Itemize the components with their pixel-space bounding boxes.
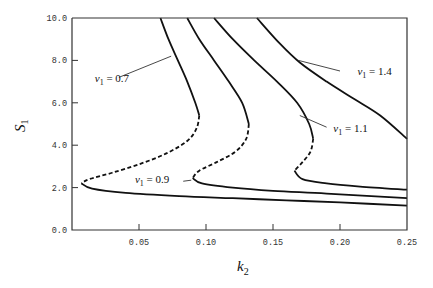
x-tick-label: 0.10 — [196, 238, 216, 248]
y-tick-label: 6.0 — [52, 99, 67, 109]
x-axis-title: k2 — [237, 258, 249, 277]
curve-label: v1 = 0.7 — [95, 72, 130, 87]
stable-branch — [294, 171, 407, 190]
x-tick-label: 0.25 — [397, 238, 417, 248]
curves-layer — [81, 18, 407, 206]
curve-labels: v1 = 0.7v1 = 0.9v1 = 1.1v1 = 1.4 — [95, 56, 392, 188]
y-tick-label: 4.0 — [52, 141, 67, 151]
y-tick-label: 10.0 — [47, 14, 67, 24]
unstable-branch — [193, 124, 249, 178]
curve-label: v1 = 0.9 — [135, 173, 170, 188]
curve-label: v1 = 1.4 — [357, 65, 392, 80]
y-axis-title: S1 — [12, 120, 30, 133]
stable-branch — [214, 18, 313, 139]
series-114 — [257, 18, 407, 139]
x-tick-label: 0.05 — [129, 238, 149, 248]
y-tick-label: 8.0 — [52, 56, 67, 66]
label-leader-line — [300, 116, 327, 128]
series-107 — [81, 18, 407, 206]
label-leader-line — [183, 180, 191, 181]
unstable-branch — [294, 139, 313, 171]
stable-branch — [160, 18, 199, 116]
stable-branch — [257, 18, 407, 139]
y-tick-label: 2.0 — [52, 184, 67, 194]
chart: 0.050.100.150.200.250.02.04.06.08.010.0 … — [0, 0, 433, 288]
x-tick-label: 0.20 — [330, 238, 350, 248]
x-tick-label: 0.15 — [263, 238, 283, 248]
series-109 — [187, 18, 407, 198]
unstable-branch — [81, 116, 199, 184]
curve-label: v1 = 1.1 — [333, 122, 367, 137]
y-tick-label: 0.0 — [52, 226, 67, 236]
